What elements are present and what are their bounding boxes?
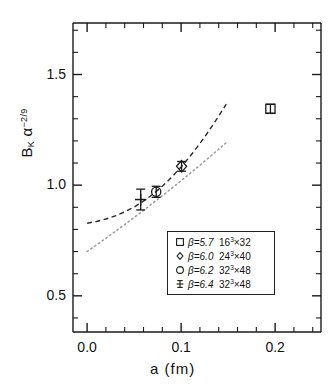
x-tick-label: 0.2 bbox=[259, 339, 291, 355]
x-axis-label: a (fm) bbox=[150, 360, 195, 377]
plot-canvas bbox=[0, 0, 335, 388]
legend-item: β=6.4 323×48 bbox=[172, 277, 270, 291]
x-tick-label: 0.0 bbox=[71, 339, 103, 355]
x-tick-label: 0.1 bbox=[165, 339, 197, 355]
diamond-marker-icon bbox=[172, 249, 188, 263]
legend-item: β=6.2 323×48 bbox=[172, 263, 270, 277]
legend-item: β=6.0 243×40 bbox=[172, 249, 270, 263]
legend-item-label: β=6.2 323×48 bbox=[188, 264, 251, 276]
plus-marker-icon bbox=[172, 277, 188, 291]
legend-box: β=5.7 163×32 β=6.0 243×40 β=6.2 323×48 β… bbox=[167, 231, 275, 295]
circle-marker-icon bbox=[172, 263, 188, 277]
legend-item-label: β=6.4 323×48 bbox=[188, 278, 251, 290]
y-axis-label-alpha: α bbox=[18, 127, 35, 136]
legend-item-label: β=6.0 243×40 bbox=[188, 250, 251, 262]
y-axis-label-base: B bbox=[18, 147, 35, 157]
y-axis-label: BK α−2/9 bbox=[18, 108, 36, 157]
y-axis-label-wrapper: BK α−2/9 bbox=[14, 78, 40, 188]
y-axis-label-exponent: −2/9 bbox=[19, 108, 29, 127]
legend-item-label: β=5.7 163×32 bbox=[188, 236, 251, 248]
figure-container: BK α−2/9 a (fm) β=5.7 163×32 β=6.0 243×4… bbox=[0, 0, 335, 388]
y-tick-label: 1.5 bbox=[28, 66, 66, 82]
y-tick-label: 1.0 bbox=[28, 176, 66, 192]
y-axis-label-sub: K bbox=[26, 141, 36, 147]
dashed-fit bbox=[87, 104, 226, 223]
y-tick-label: 0.5 bbox=[28, 287, 66, 303]
square-marker-icon bbox=[172, 235, 188, 249]
legend-item: β=5.7 163×32 bbox=[172, 235, 270, 249]
